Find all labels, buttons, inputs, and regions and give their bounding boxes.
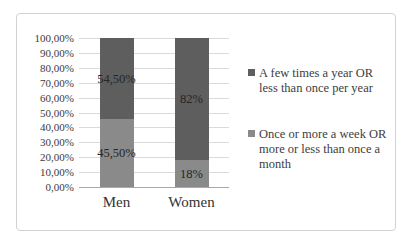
y-tick-label: 40,00%	[17, 121, 74, 133]
x-category-label: Women	[168, 194, 214, 211]
data-label: 82%	[180, 93, 203, 106]
chart-frame: 100,00%90,00%80,00%70,00%60,00%50,00%40,…	[16, 13, 396, 231]
y-tick-label: 10,00%	[17, 166, 74, 178]
chart-canvas: 100,00%90,00%80,00%70,00%60,00%50,00%40,…	[0, 0, 412, 244]
legend-label: A few times a year OR less than once per…	[259, 66, 390, 96]
y-tick-label: 60,00%	[17, 92, 74, 104]
legend-item: A few times a year OR less than once per…	[248, 66, 390, 96]
legend: A few times a year OR less than once per…	[248, 66, 390, 203]
y-tick-label: 20,00%	[17, 151, 74, 163]
y-tick-label: 100,00%	[17, 32, 74, 44]
y-tick-label: 70,00%	[17, 77, 74, 89]
y-tick-label: 30,00%	[17, 136, 74, 148]
x-category-label: Men	[103, 194, 131, 211]
data-label: 45,50%	[97, 147, 136, 160]
legend-label: Once or more a week OR more or less than…	[259, 127, 390, 172]
x-axis-line	[79, 187, 229, 188]
y-tick-label: 0,00%	[17, 181, 74, 193]
y-tick-label: 80,00%	[17, 62, 74, 74]
legend-swatch-icon	[248, 69, 255, 76]
legend-swatch-icon	[248, 130, 255, 137]
data-label: 18%	[180, 167, 203, 180]
data-label: 54,50%	[97, 72, 136, 85]
y-tick-label: 90,00%	[17, 47, 74, 59]
y-tick-label: 50,00%	[17, 107, 74, 119]
legend-item: Once or more a week OR more or less than…	[248, 127, 390, 172]
